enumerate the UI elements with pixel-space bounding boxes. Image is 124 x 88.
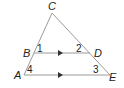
triangle-diagram: C B D A E 1 2 3 4 [0, 0, 124, 88]
angle-3: 3 [93, 64, 99, 75]
angle-4: 4 [27, 64, 33, 75]
parallel-arrow-icon [58, 72, 63, 78]
label-c: C [48, 0, 56, 12]
label-a: A [13, 69, 21, 81]
label-d: D [94, 47, 102, 59]
label-b: B [23, 47, 30, 59]
parallel-arrow-icon [58, 50, 63, 56]
angle-1: 1 [37, 43, 43, 54]
angle-2: 2 [76, 43, 82, 54]
label-e: E [109, 71, 117, 83]
